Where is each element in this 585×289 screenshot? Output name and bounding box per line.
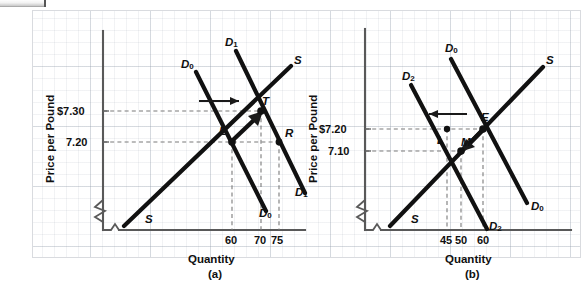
x-axis-title-a: Quantity xyxy=(188,254,235,266)
point-label-r-a: R xyxy=(285,128,293,140)
y-tick-label-730-a: $7.30 xyxy=(57,106,85,117)
chart-panel-a: Price per Pound $7.30 7.20 60 70 75 Quan… xyxy=(33,11,325,257)
point-e-dot-b xyxy=(479,125,487,133)
x-axis-title-b: Quantity xyxy=(445,254,492,266)
demand-d0-label-bottom-b: D0 xyxy=(531,201,544,213)
panel-caption-b: (b) xyxy=(465,269,480,281)
point-t-dot-a xyxy=(257,107,265,115)
shift-arrow-b xyxy=(429,110,467,118)
demand-d2-label-top-b: D2 xyxy=(402,71,415,83)
point-label-e-a: E xyxy=(219,126,227,138)
x-tick-label-60-a: 60 xyxy=(225,235,237,246)
axis-break-b xyxy=(357,200,381,230)
y-tick-label-710-b: 7.10 xyxy=(328,146,349,157)
y-axis-title-b: Price per Pound xyxy=(307,95,319,183)
demand-d0-label-top-b: D0 xyxy=(445,43,458,55)
supply-label-top-b: S xyxy=(546,55,554,67)
cropped-toolbar-strip xyxy=(0,0,46,7)
point-label-l-b: L xyxy=(437,135,444,147)
shift-arrow-a xyxy=(199,97,239,105)
demand-d0-label-bottom-a: D0 xyxy=(259,208,272,220)
figure-root: Price per Pound $7.30 7.20 60 70 75 Quan… xyxy=(0,0,585,289)
demand-d0-label-top-a: D0 xyxy=(181,59,194,71)
point-e-dot-a xyxy=(228,138,236,146)
supply-curve-a xyxy=(124,66,291,226)
point-label-e-b: E xyxy=(481,112,489,124)
y-axis-title-a: Price per Pound xyxy=(44,95,56,183)
y-tick-label-720-b: $7.20 xyxy=(319,124,347,135)
demand-d1-label-top-a: D1 xyxy=(225,37,238,49)
chart-panel-b: Price per Pound $7.20 7.10 45 50 60 Quan… xyxy=(295,11,585,257)
point-label-t-a: T xyxy=(262,96,269,108)
supply-label-bottom-b: S xyxy=(411,214,419,226)
x-tick-label-45-b: 45 xyxy=(440,235,452,246)
demand-d2-label-bottom-b: D2 xyxy=(489,221,502,233)
axis-break-a xyxy=(95,200,119,230)
point-label-m-b: M xyxy=(461,137,471,149)
point-l-dot-b xyxy=(444,126,450,132)
x-tick-label-50-b: 50 xyxy=(455,235,467,246)
supply-label-bottom-a: S xyxy=(145,214,153,226)
y-tick-label-720-a: 7.20 xyxy=(66,137,87,148)
x-tick-label-60-b: 60 xyxy=(477,235,489,246)
chart-a-svg xyxy=(33,11,325,257)
panel-caption-a: (a) xyxy=(208,269,222,281)
graph-paper-sheet: Price per Pound $7.30 7.20 60 70 75 Quan… xyxy=(33,11,580,257)
point-r-dot-a xyxy=(276,139,283,146)
x-tick-label-75-a: 75 xyxy=(271,235,283,246)
x-tick-label-70-a: 70 xyxy=(254,235,266,246)
